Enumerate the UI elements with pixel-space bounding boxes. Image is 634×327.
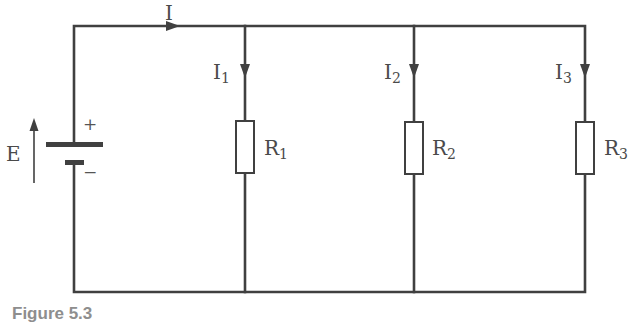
bottom-wire: [74, 162, 585, 292]
battery-positive-plate: [46, 142, 103, 147]
resistor-r2-label: R2: [432, 138, 456, 161]
current-symbol: I: [384, 60, 392, 84]
emf-label: E: [6, 144, 21, 164]
resistor-subscript: 1: [279, 146, 288, 162]
resistor-subscript: 2: [447, 146, 456, 162]
resistor-r2: [405, 122, 423, 174]
emf-arrow-icon: [30, 118, 39, 183]
battery-negative-sign: −: [83, 164, 97, 181]
branch-3-current-label: I3: [555, 62, 572, 85]
main-current-label: I: [165, 3, 173, 23]
resistor-symbol: R: [432, 136, 447, 160]
current-subscript: 3: [563, 70, 572, 86]
resistor-r1: [236, 121, 254, 173]
resistor-r3: [576, 122, 594, 174]
figure-caption: Figure 5.3: [12, 304, 92, 324]
resistor-symbol: R: [264, 136, 279, 160]
resistor-symbol: R: [604, 136, 619, 160]
current-symbol: I: [213, 60, 221, 84]
branch-2-current-label: I2: [384, 62, 401, 85]
current-symbol: I: [555, 60, 563, 84]
branch-3-current-arrow-icon: [580, 64, 590, 78]
branch-1-current-label: I1: [213, 62, 230, 85]
resistor-subscript: 3: [619, 146, 628, 162]
battery-negative-plate: [65, 160, 84, 165]
battery-positive-sign: +: [83, 116, 97, 133]
current-subscript: 1: [221, 70, 230, 86]
resistor-r3-label: R3: [604, 138, 628, 161]
top-wire: [74, 26, 585, 144]
branch-2-current-arrow-icon: [409, 64, 419, 78]
resistor-r1-label: R1: [264, 138, 288, 161]
branch-1-current-arrow-icon: [240, 64, 250, 78]
current-subscript: 2: [392, 70, 401, 86]
